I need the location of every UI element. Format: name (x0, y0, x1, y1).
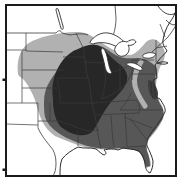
map-figure (0, 0, 184, 191)
distribution-map (0, 0, 184, 191)
